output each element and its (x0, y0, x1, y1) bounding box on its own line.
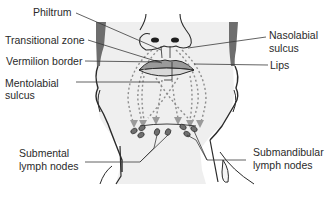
label-nasolabial-line1: Nasolabial (269, 29, 318, 41)
label-submandibular-line2: lymph nodes (253, 159, 313, 171)
right-nostril (171, 37, 179, 42)
diagram-canvas: Philtrum Transitional zone Vermilion bor… (0, 0, 328, 205)
label-submental-line2: lymph nodes (19, 160, 79, 172)
label-submandibular-line1: Submandibular (253, 146, 324, 158)
label-submental-line1: Submental (19, 147, 69, 159)
label-lips: Lips (270, 59, 289, 71)
right-cheek-shadow (229, 22, 238, 66)
label-transitional-zone: Transitional zone (5, 34, 85, 46)
label-nasolabial-line2: sulcus (269, 42, 299, 54)
label-mentolabial-sulcus-line2: sulcus (5, 89, 35, 101)
left-nostril (151, 37, 159, 42)
label-mentolabial-sulcus-line1: Mentolabial (5, 77, 59, 89)
label-vermilion-border: Vermilion border (6, 55, 82, 67)
label-philtrum: Philtrum (33, 6, 72, 18)
